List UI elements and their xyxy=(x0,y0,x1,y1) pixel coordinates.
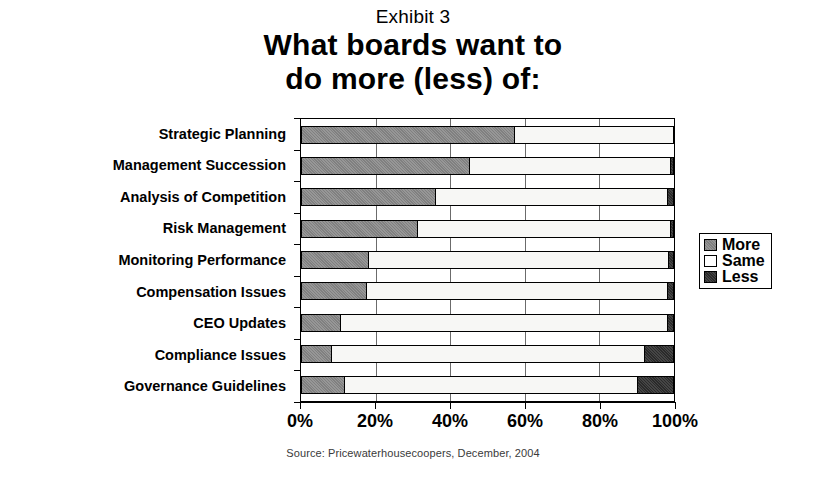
value-axis-label: 0% xyxy=(287,411,313,432)
value-axis-label: 80% xyxy=(582,411,618,432)
bar-rows xyxy=(301,119,674,401)
legend-label: More xyxy=(722,237,760,253)
bar-row[interactable] xyxy=(301,251,674,269)
category-label: Monitoring Performance xyxy=(0,251,294,269)
bar-segment-same[interactable] xyxy=(435,188,666,206)
value-axis-label: 20% xyxy=(357,411,393,432)
bar-segment-more[interactable] xyxy=(301,188,435,206)
category-label: Strategic Planning xyxy=(0,125,294,143)
bar-segment-more[interactable] xyxy=(301,220,417,238)
bar-segment-more[interactable] xyxy=(301,314,340,332)
value-axis-tick xyxy=(375,402,376,409)
bar-segment-same[interactable] xyxy=(340,314,666,332)
bar-segment-same[interactable] xyxy=(366,282,666,300)
bar-row[interactable] xyxy=(301,126,674,144)
legend-swatch xyxy=(704,255,717,267)
bar-segment-more[interactable] xyxy=(301,157,469,175)
bar-row[interactable] xyxy=(301,314,674,332)
bar-segment-same[interactable] xyxy=(514,126,674,144)
bar-segment-more[interactable] xyxy=(301,282,366,300)
legend-label: Same xyxy=(722,253,765,269)
value-axis-tick xyxy=(300,402,301,409)
legend-item[interactable]: Less xyxy=(704,269,765,285)
exhibit-label: Exhibit 3 xyxy=(0,6,826,28)
bar-segment-same[interactable] xyxy=(344,376,637,394)
bar-segment-less[interactable] xyxy=(644,345,674,363)
bar-segment-more[interactable] xyxy=(301,251,368,269)
bar-segment-less[interactable] xyxy=(668,251,674,269)
bar-row[interactable] xyxy=(301,376,674,394)
value-axis-tick xyxy=(600,402,601,409)
bar-row[interactable] xyxy=(301,188,674,206)
bar-row[interactable] xyxy=(301,220,674,238)
category-label: Governance Guidelines xyxy=(0,377,294,395)
category-label: Management Succession xyxy=(0,156,294,174)
bar-segment-less[interactable] xyxy=(667,188,674,206)
category-label: Compliance Issues xyxy=(0,346,294,364)
legend-item[interactable]: Same xyxy=(704,253,765,269)
value-axis-label: 100% xyxy=(652,411,698,432)
value-axis-line xyxy=(300,402,675,403)
category-label: CEO Updates xyxy=(0,314,294,332)
chart-legend: MoreSameLess xyxy=(699,233,772,289)
legend-swatch xyxy=(704,271,717,283)
plot-wrapper xyxy=(300,118,675,402)
bar-segment-same[interactable] xyxy=(417,220,671,238)
value-axis-tick xyxy=(525,402,526,409)
category-label: Compensation Issues xyxy=(0,283,294,301)
bar-segment-less[interactable] xyxy=(667,314,674,332)
chart-title: What boards want to do more (less) of: xyxy=(0,28,826,96)
category-label: Analysis of Competition xyxy=(0,188,294,206)
value-axis-label: 60% xyxy=(507,411,543,432)
value-axis-tick xyxy=(450,402,451,409)
bar-segment-less[interactable] xyxy=(637,376,674,394)
legend-swatch xyxy=(704,239,717,251)
value-axis-label: 40% xyxy=(432,411,468,432)
bar-segment-more[interactable] xyxy=(301,126,514,144)
chart-title-line-2: do more (less) of: xyxy=(0,62,826,96)
bar-row[interactable] xyxy=(301,282,674,300)
bar-segment-less[interactable] xyxy=(667,282,674,300)
legend-label: Less xyxy=(722,269,758,285)
bar-segment-same[interactable] xyxy=(331,345,644,363)
bar-segment-more[interactable] xyxy=(301,376,344,394)
value-axis-tick xyxy=(675,402,676,409)
legend-item[interactable]: More xyxy=(704,237,765,253)
chart-title-line-1: What boards want to xyxy=(0,28,826,62)
source-note: Source: Pricewaterhousecoopers, December… xyxy=(0,447,826,459)
plot-area xyxy=(300,118,675,402)
bar-row[interactable] xyxy=(301,157,674,175)
bar-segment-same[interactable] xyxy=(368,251,668,269)
bar-row[interactable] xyxy=(301,345,674,363)
category-label: Risk Management xyxy=(0,219,294,237)
category-axis-labels: Strategic PlanningManagement SuccessionA… xyxy=(0,118,294,402)
bar-segment-same[interactable] xyxy=(469,157,670,175)
bar-segment-less[interactable] xyxy=(670,220,674,238)
bar-segment-less[interactable] xyxy=(670,157,674,175)
bar-segment-more[interactable] xyxy=(301,345,331,363)
